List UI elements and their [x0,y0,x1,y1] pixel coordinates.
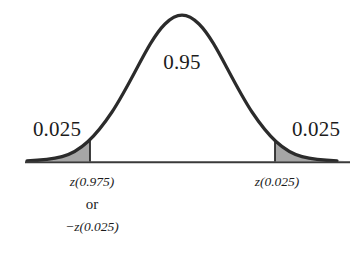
center-area-label: 0.95 [163,52,201,73]
left-tick-alt-label: −z(0.025) [65,220,119,234]
left-tick-alt-connector-label: or [86,197,99,212]
normal-distribution-figure: 0.95 0.025 0.025 z(0.975) or −z(0.025) z… [0,0,359,254]
left-tick-label: z(0.975) [70,175,115,189]
right-tick-label: z(0.025) [255,175,300,189]
right-tail-area-label: 0.025 [292,119,340,140]
left-tail-area-label: 0.025 [33,119,81,140]
